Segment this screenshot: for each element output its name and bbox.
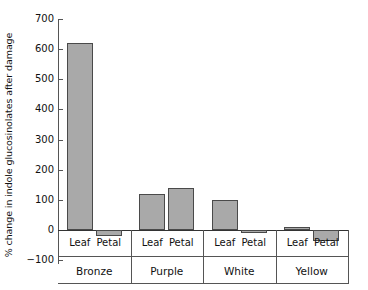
bar-bronze-leaf bbox=[67, 43, 93, 230]
y-axis-title: % change in indole glucosinolates after … bbox=[0, 0, 16, 290]
y-tick-label: 100 bbox=[20, 195, 54, 205]
y-tick-label: 400 bbox=[20, 104, 54, 114]
group-label-yellow: Yellow bbox=[276, 261, 349, 281]
bar-chart: % change in indole glucosinolates after … bbox=[0, 0, 368, 290]
sub-label-yellow-petal: Petal bbox=[304, 234, 348, 252]
y-tick-label: 300 bbox=[20, 135, 54, 145]
bar-purple-leaf bbox=[139, 194, 165, 230]
sub-label-white-petal: Petal bbox=[232, 234, 276, 252]
group-label-white: White bbox=[203, 261, 276, 281]
plot-area bbox=[58, 19, 349, 264]
y-tick-label: 500 bbox=[20, 74, 54, 84]
group-label-purple: Purple bbox=[131, 261, 204, 281]
group-label-bronze: Bronze bbox=[58, 261, 131, 281]
y-tick-label: −100 bbox=[20, 255, 54, 265]
sub-label-purple-petal: Petal bbox=[159, 234, 203, 252]
y-tick-label: 200 bbox=[20, 165, 54, 175]
bar-purple-petal bbox=[168, 188, 194, 230]
y-tick-label: 0 bbox=[20, 225, 54, 235]
bar-white-leaf bbox=[212, 200, 238, 230]
y-tick-label: 700 bbox=[20, 14, 54, 24]
y-axis-tick-labels: 7006005004003002001000−100 bbox=[18, 0, 54, 290]
bar-white-petal bbox=[241, 230, 267, 233]
bar-yellow-leaf bbox=[284, 227, 310, 230]
y-tick-label: 600 bbox=[20, 44, 54, 54]
sub-label-bronze-petal: Petal bbox=[87, 234, 131, 252]
